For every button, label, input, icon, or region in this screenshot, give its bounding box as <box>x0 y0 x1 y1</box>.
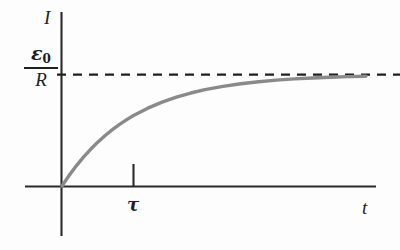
x-axis-label: t <box>362 198 367 217</box>
y-axis-label: I <box>44 8 50 27</box>
current-curve <box>62 76 366 186</box>
tau-tick-label: τ <box>127 196 139 214</box>
epsilon-subscript: 0 <box>43 52 51 66</box>
fraction-numerator: ε0 <box>22 44 60 66</box>
plot-svg <box>0 0 400 250</box>
epsilon-symbol: ε <box>31 42 43 64</box>
fraction-denominator: R <box>22 70 60 90</box>
figure-canvas: I t τ ε0 R <box>0 0 400 250</box>
asymptote-value-label: ε0 R <box>22 44 60 89</box>
